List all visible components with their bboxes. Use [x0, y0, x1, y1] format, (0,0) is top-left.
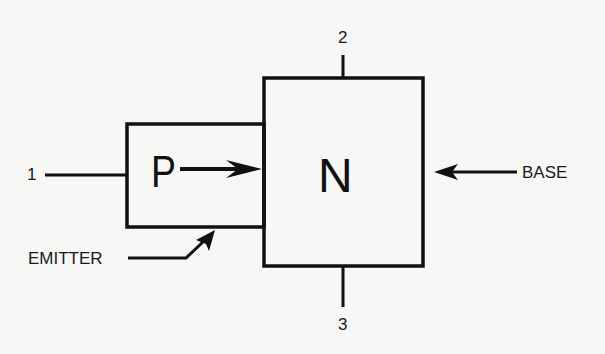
base-label: BASE	[522, 164, 567, 181]
terminal-1-label: 1	[27, 166, 36, 183]
terminal-2-label: 2	[338, 29, 347, 46]
p-region-box	[127, 124, 264, 227]
emitter-label: EMITTER	[28, 250, 103, 267]
terminal-3-label: 3	[338, 316, 347, 333]
p-region-letter: P	[151, 150, 176, 194]
emitter-arrow-icon	[128, 230, 215, 258]
base-arrow-icon	[434, 164, 517, 180]
diagram-canvas	[0, 0, 605, 354]
n-region-letter: N	[318, 152, 353, 200]
p-to-n-arrow-icon	[180, 160, 262, 178]
